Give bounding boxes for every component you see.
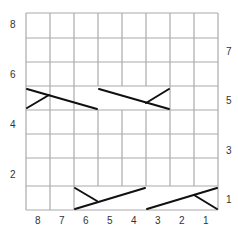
row-label-3: 3 <box>226 146 232 156</box>
row-label-1: 1 <box>226 195 232 205</box>
row-label-6: 6 <box>10 70 16 80</box>
col-label-8: 8 <box>35 216 41 226</box>
col-label-1: 1 <box>203 216 209 226</box>
col-label-2: 2 <box>179 216 185 226</box>
col-label-6: 6 <box>83 216 89 226</box>
col-label-7: 7 <box>59 216 65 226</box>
row-label-2: 2 <box>10 170 16 180</box>
knitting-chart-grid <box>0 0 238 235</box>
col-label-4: 4 <box>131 216 137 226</box>
col-label-5: 5 <box>107 216 113 226</box>
row-label-4: 4 <box>10 120 16 130</box>
row-label-8: 8 <box>10 20 16 30</box>
row-label-5: 5 <box>226 96 232 106</box>
row-label-7: 7 <box>226 47 232 57</box>
col-label-3: 3 <box>155 216 161 226</box>
